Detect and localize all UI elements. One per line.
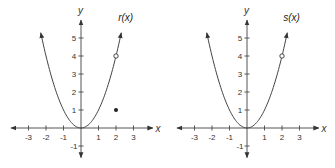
graph-r: -3-2-1123-112345xyr(x) (11, 5, 161, 158)
y-tick-label: 1 (72, 106, 77, 115)
x-tick-label: -3 (191, 133, 199, 142)
x-tick-label: 1 (262, 133, 267, 142)
open-circle-point (114, 54, 118, 58)
x-tick-label: 2 (114, 133, 119, 142)
x-tick-label: 1 (96, 133, 101, 142)
x-axis-label: x (320, 123, 327, 134)
y-tick-label: -1 (70, 142, 78, 151)
function-label: r(x) (118, 12, 133, 23)
y-axis-label: y (243, 5, 250, 16)
open-circle-point (280, 54, 284, 58)
y-tick-label: 4 (238, 52, 243, 61)
plots-canvas: -3-2-1123-112345xyr(x) -3-2-1123-112345x… (0, 0, 335, 168)
y-tick-label: 4 (72, 52, 77, 61)
y-tick-label: 5 (238, 34, 243, 43)
x-tick-label: -3 (25, 133, 33, 142)
y-tick-label: 2 (238, 88, 243, 97)
graph-s: -3-2-1123-112345xys(x) (177, 5, 327, 158)
x-tick-label: -2 (42, 133, 50, 142)
x-tick-label: -1 (226, 133, 234, 142)
filled-point (114, 108, 118, 112)
x-axis-label: x (154, 123, 161, 134)
y-tick-label: 1 (238, 106, 243, 115)
x-tick-label: -1 (60, 133, 68, 142)
x-tick-label: 2 (280, 133, 285, 142)
x-tick-label: 3 (131, 133, 136, 142)
function-label: s(x) (283, 12, 300, 23)
x-tick-label: 3 (297, 133, 302, 142)
y-axis-label: y (77, 5, 84, 16)
y-tick-label: 5 (72, 34, 77, 43)
y-tick-label: 2 (72, 88, 77, 97)
y-tick-label: 3 (238, 70, 243, 79)
y-tick-label: -1 (236, 142, 244, 151)
x-tick-label: -2 (208, 133, 216, 142)
y-tick-label: 3 (72, 70, 77, 79)
